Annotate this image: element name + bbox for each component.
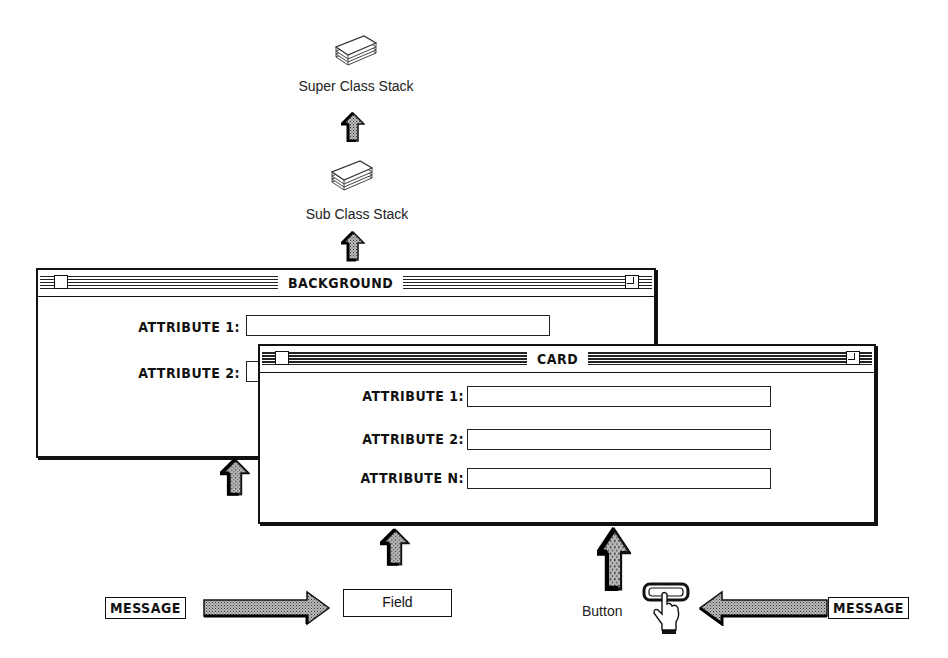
right-arrow-icon: [203, 590, 331, 626]
message-box: MESSAGE: [828, 597, 909, 619]
title-bar[interactable]: CARD: [260, 346, 874, 373]
field-box[interactable]: Field: [343, 589, 452, 617]
up-arrow-icon: [341, 230, 365, 262]
window-title: BACKGROUND: [278, 274, 403, 292]
attribute-1-field[interactable]: [246, 315, 550, 336]
hand-pointer-button-icon[interactable]: [642, 582, 692, 638]
card-window: CARD ATTRIBUTE 1: ATTRIBUTE 2: ATTRIBUTE…: [258, 344, 876, 524]
attribute-label: ATTRIBUTE 2:: [98, 365, 240, 381]
sub-class-stack-label: Sub Class Stack: [287, 206, 427, 222]
up-arrow-icon: [220, 458, 250, 496]
button-label: Button: [582, 603, 622, 619]
close-box-icon[interactable]: [275, 351, 289, 365]
attribute-2-field[interactable]: [467, 429, 771, 450]
attribute-label: ATTRIBUTE 1:: [320, 388, 464, 404]
card-stack-icon: [334, 35, 378, 69]
close-box-icon[interactable]: [54, 275, 68, 289]
message-box: MESSAGE: [105, 597, 186, 619]
up-arrow-icon: [597, 527, 631, 591]
attribute-n-field[interactable]: [467, 468, 771, 489]
title-bar[interactable]: BACKGROUND: [38, 270, 654, 297]
up-arrow-icon: [380, 528, 410, 566]
left-arrow-icon: [698, 590, 828, 626]
zoom-box-icon[interactable]: [625, 275, 639, 289]
up-arrow-icon: [341, 112, 365, 142]
attribute-label: ATTRIBUTE 1:: [98, 319, 240, 335]
zoom-box-icon[interactable]: [846, 351, 860, 365]
attribute-label: ATTRIBUTE N:: [320, 470, 464, 486]
super-class-stack-label: Super Class Stack: [286, 78, 426, 94]
attribute-label: ATTRIBUTE 2:: [320, 431, 464, 447]
attribute-1-field[interactable]: [467, 386, 771, 407]
window-title: CARD: [527, 350, 588, 368]
card-stack-icon: [330, 160, 374, 194]
